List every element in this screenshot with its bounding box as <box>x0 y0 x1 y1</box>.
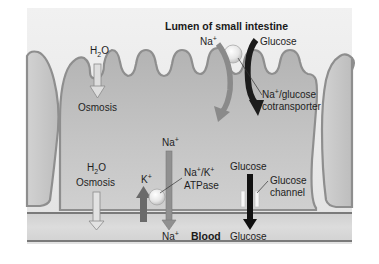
blood-region-label: Blood <box>191 230 221 242</box>
glucose-cell-label: Glucose <box>230 161 267 172</box>
osmosis-basal-label: Osmosis <box>76 177 115 188</box>
cotransporter-label-line2: cotransporter <box>262 101 322 112</box>
blood-region <box>27 212 352 242</box>
glucose-channel-label-line1: Glucose <box>270 175 307 186</box>
atpase-label-line2: ATPase <box>184 180 219 191</box>
lumen-title: Lumen of small intestine <box>165 20 288 32</box>
osmosis-apical-label: Osmosis <box>78 102 117 113</box>
cotransporter-label-line1: Na+/glucose <box>262 88 317 100</box>
glucose-channel-label-line2: channel <box>270 187 305 198</box>
glucose-absorption-diagram: Lumen of small intestine H2O Osmosis Na+… <box>0 0 379 264</box>
glucose-blood-label: Glucose <box>230 231 267 242</box>
glucose-lumen-label: Glucose <box>260 36 297 47</box>
right-epithelial-cell <box>322 54 352 207</box>
